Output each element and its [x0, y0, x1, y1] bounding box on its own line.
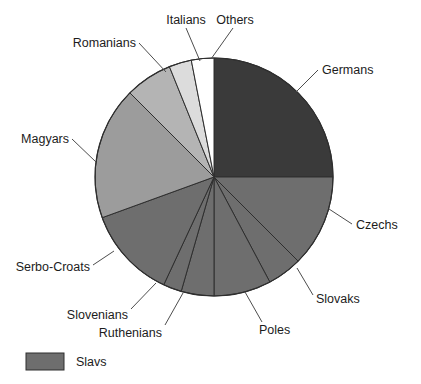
leader-line-italians	[186, 28, 200, 61]
slice-label-serbo-croats: Serbo-Croats	[16, 260, 90, 274]
slice-label-poles: Poles	[259, 323, 290, 337]
slice-label-slovaks: Slovaks	[316, 292, 360, 306]
leader-line-ruthenians	[165, 293, 183, 325]
slice-label-romanians: Romanians	[73, 36, 136, 50]
leader-line-others	[211, 28, 233, 59]
slice-label-magyars: Magyars	[21, 132, 69, 146]
leader-line-slovenians	[131, 283, 156, 309]
leader-line-czechs	[329, 209, 352, 224]
pie-slices-group	[95, 58, 333, 296]
leader-line-slovaks	[297, 268, 313, 295]
slice-label-slovenians: Slovenians	[67, 308, 128, 322]
slice-label-others: Others	[216, 13, 254, 27]
slice-label-italians: Italians	[166, 13, 206, 27]
leader-line-magyars	[72, 139, 96, 162]
legend: Slavs	[26, 353, 107, 370]
leader-line-germans	[296, 70, 318, 92]
legend-label-slavs: Slavs	[76, 355, 107, 369]
leader-line-poles	[245, 292, 262, 322]
slice-label-czechs: Czechs	[356, 218, 398, 232]
legend-swatch-slavs	[26, 353, 64, 370]
pie-slice-germans[interactable]	[214, 58, 333, 177]
slice-label-ruthenians: Ruthenians	[99, 326, 162, 340]
chart-canvas: Germans Czechs Slovaks Poles Ruthenians …	[0, 0, 421, 384]
pie-chart: Germans Czechs Slovaks Poles Ruthenians …	[0, 0, 421, 384]
leader-line-serbo-croats	[93, 251, 114, 265]
slice-label-germans: Germans	[322, 63, 373, 77]
leader-line-romanians	[139, 43, 166, 72]
